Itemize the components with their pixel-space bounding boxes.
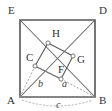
vertex-label-g: G [77, 53, 85, 65]
dashed-segment-a-c [20, 66, 35, 97]
vertex-label-e: E [8, 4, 15, 16]
vertex-marker-h [46, 41, 50, 45]
vertex-label-a: A [7, 94, 15, 106]
geometry-figure: E D A B H G C F b a c [0, 0, 112, 111]
vertex-label-b: B [99, 94, 106, 106]
vertex-label-f: F [58, 63, 64, 75]
vertex-marker-c [33, 64, 37, 68]
vertex-marker-g [71, 54, 75, 58]
side-label-b: b [38, 78, 43, 89]
vertex-label-d: D [99, 4, 107, 16]
vertex-label-c: C [26, 51, 33, 63]
vertex-label-h: H [52, 27, 60, 39]
side-label-c: c [56, 99, 61, 110]
geometry-canvas: E D A B H G C F b a c [0, 0, 112, 111]
side-label-a: a [62, 78, 67, 89]
